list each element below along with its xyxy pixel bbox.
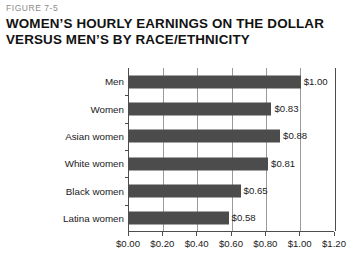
bar-row[interactable]: $0.83 — [129, 95, 334, 122]
bar[interactable] — [129, 102, 271, 115]
x-axis-tick — [265, 232, 266, 236]
bar-value-label: $0.88 — [280, 131, 307, 141]
y-axis-category-labels: MenWomenAsian womenWhite womenBlack wome… — [0, 68, 128, 232]
x-axis-tick-label: $0.80 — [253, 238, 277, 249]
x-axis-tick-label: $1.20 — [322, 238, 346, 249]
y-axis-label: Men — [105, 76, 124, 87]
x-axis-tick — [231, 232, 232, 236]
bar-chart: MenWomenAsian womenWhite womenBlack wome… — [0, 0, 364, 268]
bar[interactable] — [129, 184, 241, 197]
x-axis-tick — [299, 232, 300, 236]
bar[interactable] — [129, 157, 268, 170]
plot-area: $1.00$0.83$0.88$0.81$0.65$0.58 — [128, 68, 334, 232]
bar-row[interactable]: $1.00 — [129, 68, 334, 95]
x-axis-tick-label: $1.00 — [288, 238, 312, 249]
bar-row[interactable]: $0.81 — [129, 150, 334, 177]
bar[interactable] — [129, 130, 280, 143]
bar-row[interactable]: $0.65 — [129, 177, 334, 204]
x-axis-tick-label: $0.60 — [219, 238, 243, 249]
bar-value-label: $1.00 — [301, 77, 328, 87]
bar[interactable] — [129, 75, 301, 88]
bar-value-label: $0.58 — [229, 213, 256, 223]
y-axis-label: Latina women — [63, 213, 124, 224]
x-axis-tick-label: $0.00 — [116, 238, 140, 249]
x-axis: $0.00$0.20$0.40$0.60$0.80$1.00$1.20 — [128, 232, 334, 262]
bar[interactable] — [129, 212, 229, 225]
y-axis-label: Black women — [66, 186, 124, 197]
y-axis-label: Asian women — [65, 131, 124, 142]
x-axis-tick — [162, 232, 163, 236]
x-axis-tick — [334, 232, 335, 236]
y-axis-label: Women — [90, 104, 124, 115]
x-axis-tick-label: $0.40 — [185, 238, 209, 249]
x-axis-tick-label: $0.20 — [150, 238, 174, 249]
y-axis-label: White women — [65, 158, 124, 169]
bar-row[interactable]: $0.88 — [129, 123, 334, 150]
bar-value-label: $0.65 — [241, 186, 268, 196]
bar-row[interactable]: $0.58 — [129, 205, 334, 232]
bar-value-label: $0.81 — [268, 159, 295, 169]
bar-value-label: $0.83 — [271, 104, 298, 114]
x-axis-tick — [128, 232, 129, 236]
gridline — [335, 68, 336, 231]
x-axis-tick — [196, 232, 197, 236]
